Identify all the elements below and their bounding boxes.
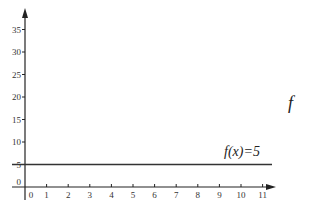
y-tick-label: 15	[12, 115, 22, 125]
x-tick-label: 8	[196, 190, 201, 200]
x-tick-label: 4	[109, 190, 114, 200]
function-label: f(x)=5	[224, 144, 260, 160]
y-tick-label: 35	[12, 25, 22, 35]
x-axis: 01234567891011	[12, 184, 276, 200]
x-tick-label: 9	[217, 190, 222, 200]
x-tick-label: 0	[29, 190, 34, 200]
x-tick-label: 5	[131, 190, 136, 200]
x-tick-label: 1	[44, 190, 49, 200]
x-tick-label: 11	[258, 190, 267, 200]
y-tick-label: 30	[12, 47, 22, 57]
x-tick-label: 2	[66, 190, 71, 200]
side-label-f: f	[288, 93, 296, 113]
y-tick-label: 25	[12, 70, 22, 80]
chart: 05101520253035 01234567891011 f(x)=5 f	[0, 0, 319, 224]
y-tick-label: 0	[17, 177, 22, 187]
x-tick-label: 6	[152, 190, 157, 200]
x-axis-arrow-icon	[266, 184, 276, 190]
x-tick-label: 3	[88, 190, 93, 200]
y-tick-label: 10	[12, 137, 22, 147]
y-axis: 05101520253035	[12, 8, 28, 200]
x-tick-label: 7	[174, 190, 179, 200]
y-tick-label: 20	[12, 92, 22, 102]
y-axis-arrow-icon	[22, 8, 28, 18]
x-tick-label: 10	[237, 190, 247, 200]
